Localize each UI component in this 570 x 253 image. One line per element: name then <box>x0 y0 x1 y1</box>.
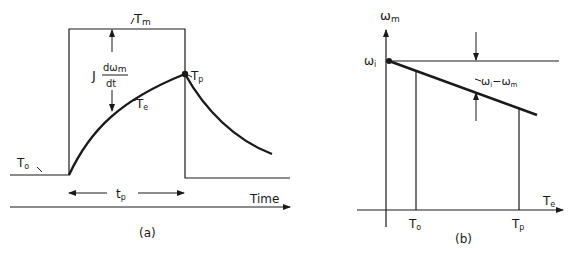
te-label: Te <box>135 97 148 112</box>
tp-duration-label: tp <box>116 187 126 202</box>
panel-b: ωm Te ωi ωi−ωm To Tp (b) <box>357 8 563 246</box>
j-label: J <box>91 68 96 83</box>
dt-label: dt <box>106 78 116 89</box>
slip-label: ωi−ωm <box>481 75 518 89</box>
tm-pulse <box>10 29 290 178</box>
omega-i-label: ωi <box>364 54 376 69</box>
tp-label: Tp <box>190 69 203 84</box>
to-leader <box>37 167 42 172</box>
to-label: To <box>16 156 29 171</box>
tp-point <box>182 71 188 77</box>
tp-tick-label: Tp <box>511 217 524 232</box>
caption-a: (a) <box>139 226 156 240</box>
to-tick-label: To <box>408 217 421 232</box>
dw-label: dωm <box>103 62 127 74</box>
panel-a: Tm J dωm dt Te Tp To tp Time (a) <box>10 11 290 240</box>
tm-label: Tm <box>133 11 151 27</box>
figure: Tm J dωm dt Te Tp To tp Time (a) ωm Te <box>0 0 570 253</box>
decay-curve <box>185 74 272 154</box>
omega-m-axis-label: ωm <box>380 8 400 24</box>
te-axis-label: Te <box>542 194 555 209</box>
time-axis-label: Time <box>249 192 279 206</box>
caption-b: (b) <box>455 232 472 246</box>
te-curve <box>69 74 185 175</box>
